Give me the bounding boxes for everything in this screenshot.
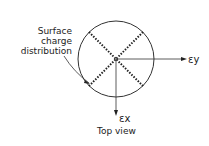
arrowhead-icon [84, 80, 90, 84]
annotation-line: charge [20, 36, 72, 46]
caption: Top view [97, 126, 136, 136]
arrowhead-icon [181, 57, 187, 61]
annotation-label: Surface charge distribution [20, 26, 72, 56]
epsilon-y-label: εy [188, 55, 199, 65]
epsilon-x-label: εx [119, 114, 130, 124]
annotation-line: distribution [20, 46, 72, 56]
arrowhead-icon [114, 110, 118, 116]
diagram-drawing [0, 0, 209, 146]
annotation-line: Surface [20, 26, 72, 36]
pointer-line [64, 56, 89, 83]
diagram: Surface charge distribution εy εx Top vi… [0, 0, 209, 146]
